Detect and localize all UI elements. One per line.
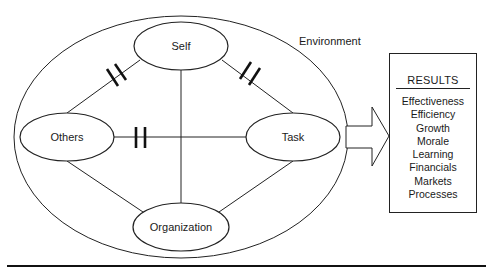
results-item: Growth	[390, 122, 476, 135]
results-title-rule	[396, 88, 470, 89]
node-others: Others	[20, 113, 114, 161]
node-task-label: Task	[282, 131, 305, 143]
link-task-organization	[219, 161, 293, 212]
results-item: Processes	[390, 188, 476, 201]
results-item: Effectiveness	[390, 95, 476, 108]
node-organization: Organization	[133, 203, 229, 251]
node-self-label: Self	[172, 40, 192, 52]
link-self-task	[222, 60, 293, 113]
tension-mark-self-others	[107, 64, 126, 86]
tension-mark-self-task	[240, 62, 260, 85]
results-item: Financials	[390, 161, 476, 174]
results-item: Learning	[390, 148, 476, 161]
node-task: Task	[246, 113, 340, 161]
node-organization-label: Organization	[150, 221, 212, 233]
results-item: Efficiency	[390, 108, 476, 121]
results-box: RESULTS Effectiveness Efficiency Growth …	[389, 53, 477, 213]
environment-label: Environment	[299, 35, 361, 47]
results-item: Morale	[390, 135, 476, 148]
results-item: Markets	[390, 175, 476, 188]
results-list: Effectiveness Efficiency Growth Morale L…	[390, 95, 476, 201]
link-others-organization	[67, 161, 143, 212]
link-self-others	[67, 60, 140, 113]
results-title: RESULTS	[390, 74, 476, 87]
results-arrow-icon	[346, 107, 389, 166]
node-self: Self	[134, 22, 228, 70]
node-others-label: Others	[50, 131, 84, 143]
